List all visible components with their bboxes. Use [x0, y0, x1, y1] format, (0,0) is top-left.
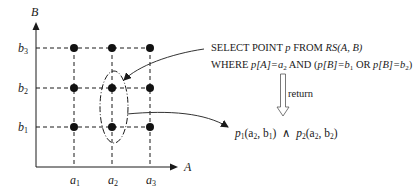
y-axis: [33, 22, 40, 167]
diagram-canvas: [0, 0, 416, 193]
y-tick-b2: b2: [18, 82, 28, 96]
query-line-1: SELECT POINT p FROM RS(A, B): [211, 43, 362, 54]
query-arrow: [124, 49, 204, 80]
y-tick-b3: b3: [18, 42, 28, 56]
x-axis-label: A: [184, 161, 191, 173]
y-axis-label: B: [31, 6, 38, 18]
y-tick-b1: b1: [18, 121, 28, 135]
result-expression: p1(a2, b1) ∧ p2(a2, b2): [235, 126, 337, 141]
x-axis: [36, 164, 178, 171]
grid-lines: [36, 48, 150, 167]
x-tick-a3: a3: [146, 174, 156, 188]
return-label: return: [288, 88, 313, 99]
x-tick-a1: a1: [70, 174, 80, 188]
query-line-2: WHERE p[A]=a2 AND (p[B]=b1 OR p[B]=b2): [211, 60, 412, 72]
result-arrow: [127, 112, 228, 127]
selection-ellipse: [100, 71, 128, 143]
x-tick-a2: a2: [108, 174, 118, 188]
